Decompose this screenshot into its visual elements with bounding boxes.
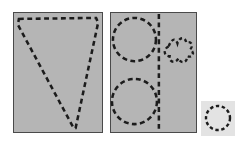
panel-small-graphics: [201, 101, 235, 136]
upper-circle-shape: [113, 18, 156, 61]
figure-canvas: [0, 0, 241, 147]
panel-middle-graphics: [111, 13, 196, 132]
cone-outline-shape: [18, 18, 98, 128]
lower-circle-shape: [112, 79, 157, 124]
panel-left: [13, 12, 103, 133]
flower-squiggle-shape: [165, 38, 193, 62]
panel-left-graphics: [14, 13, 102, 132]
small-circle-shape: [206, 106, 230, 130]
panel-middle: [110, 12, 197, 133]
panel-small: [201, 101, 235, 136]
